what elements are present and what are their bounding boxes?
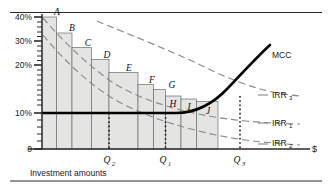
y-tick-label: 0 — [27, 144, 32, 154]
y-tick-label: 30% — [15, 36, 32, 46]
table-row — [109, 73, 138, 150]
chart-figure: 40% 30% 20% 10% 0 A B C D E F G H I J Q … — [0, 0, 332, 189]
q1-sub: 1 — [168, 160, 171, 167]
y-axis-minor-ticks — [37, 22, 42, 141]
step-label-g: G — [169, 80, 176, 90]
y-tick-label: 40% — [15, 12, 32, 22]
x-axis-caption: Investment amounts — [30, 168, 107, 178]
legend-label-irr2: IRR 2 — [272, 138, 293, 149]
q1-base: Q — [160, 155, 167, 165]
irr2-base: IRR — [272, 138, 287, 148]
y-tick-label: 10% — [15, 108, 32, 118]
irr1-base: IRR — [272, 118, 287, 128]
table-row — [57, 33, 73, 149]
x-tick-label-q2: Q 2 — [104, 155, 116, 167]
legend-label-mcc: MCC — [272, 50, 291, 60]
q3-base: Q — [234, 155, 241, 165]
step-label-a: A — [53, 7, 60, 17]
step-label-e: E — [125, 63, 132, 73]
step-label-h: H — [169, 99, 178, 109]
step-label-d: D — [103, 50, 111, 60]
irr3-base: IRR — [272, 90, 287, 100]
step-label-c: C — [85, 38, 92, 48]
step-label-f: F — [148, 75, 155, 85]
legend-label-irr1: IRR 1 — [272, 118, 293, 129]
x-tick-label-q3: Q 3 — [234, 155, 246, 167]
investment-mcc-chart: 40% 30% 20% 10% 0 A B C D E F G H I J Q … — [0, 0, 332, 189]
table-row — [72, 48, 92, 150]
x-tick-label-q1: Q 1 — [160, 155, 172, 167]
irr3-sub: 3 — [289, 95, 293, 101]
q3-sub: 3 — [241, 160, 246, 167]
step-label-b: B — [69, 23, 75, 33]
q2-sub: 2 — [112, 160, 116, 167]
legend-label-irr3: IRR 3 — [272, 90, 293, 101]
y-tick-label: 20% — [15, 60, 32, 70]
q2-base: Q — [104, 155, 111, 165]
x-axis-unit-label: $ — [312, 144, 317, 154]
